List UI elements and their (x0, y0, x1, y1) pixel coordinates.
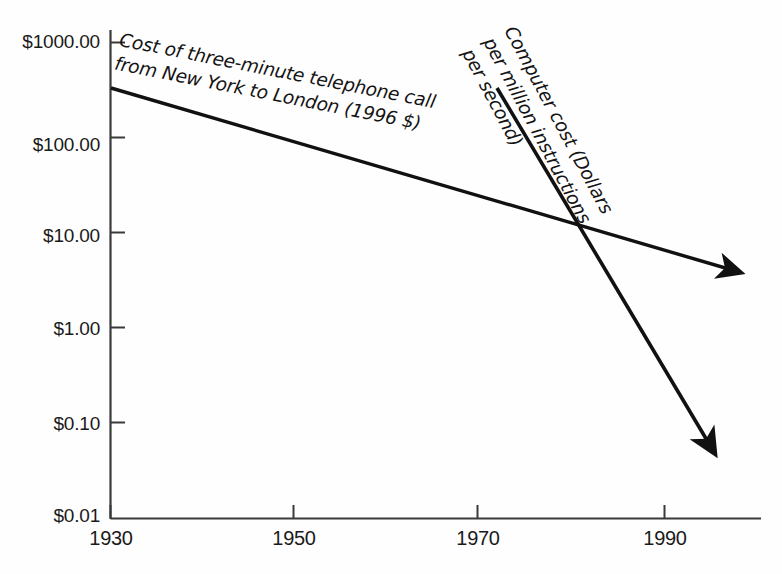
y-tick-label-0-10: $0.10 (53, 413, 100, 435)
y-axis-tick-labels: $1000.00 $100.00 $10.00 $1.00 $0.10 $0.0… (0, 0, 100, 574)
y-tick-label-1000: $1000.00 (22, 31, 100, 53)
y-axis-ticks (110, 43, 125, 423)
x-axis-ticks (111, 505, 665, 518)
x-tick-label-1970: 1970 (456, 527, 499, 550)
x-tick-label-1930: 1930 (89, 527, 132, 550)
y-tick-label-10: $10.00 (43, 225, 100, 247)
chart-figure: $1000.00 $100.00 $10.00 $1.00 $0.10 $0.0… (0, 0, 782, 574)
y-tick-label-100: $100.00 (33, 134, 100, 156)
x-tick-label-1950: 1950 (272, 527, 315, 550)
y-tick-label-0-01: $0.01 (53, 505, 100, 527)
x-tick-label-1990: 1990 (643, 527, 686, 550)
y-tick-label-1: $1.00 (53, 318, 100, 340)
